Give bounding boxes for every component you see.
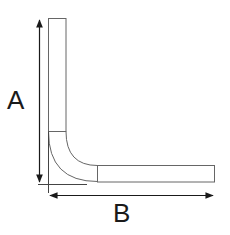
elbow-bend [49,132,98,182]
dimension-a-label: A [7,87,24,113]
vertical-leg [49,19,67,132]
horizontal-leg [98,166,215,183]
elbow-dimension-diagram: A B [0,0,230,235]
reference-lines [38,132,87,194]
dimension-b-label: B [113,200,130,226]
